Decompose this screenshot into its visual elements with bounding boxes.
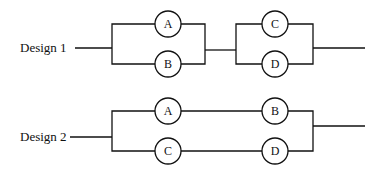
design-1-node-c: C	[262, 11, 288, 37]
design-2-node-a: A	[155, 98, 181, 124]
design-1-node-d: D	[262, 51, 288, 77]
design-1-node-b: B	[155, 51, 181, 77]
design-1-node-a: A	[155, 11, 181, 37]
design-2-node-b: B	[262, 98, 288, 124]
design-1-label: Design 1	[20, 40, 67, 55]
svg-text:D: D	[271, 144, 280, 158]
svg-text:C: C	[271, 17, 279, 31]
svg-text:C: C	[164, 144, 172, 158]
design-2-node-c: C	[155, 138, 181, 164]
reliability-diagram: Design 1 Design 2 A B C D A B C D	[0, 0, 384, 175]
design-1-wires	[75, 24, 365, 64]
svg-text:A: A	[164, 17, 173, 31]
design-2-label: Design 2	[20, 129, 67, 144]
svg-text:B: B	[164, 57, 172, 71]
svg-text:D: D	[271, 57, 280, 71]
design-2-wires	[70, 111, 365, 151]
design-2-node-d: D	[262, 138, 288, 164]
svg-text:A: A	[164, 104, 173, 118]
svg-text:B: B	[271, 104, 279, 118]
